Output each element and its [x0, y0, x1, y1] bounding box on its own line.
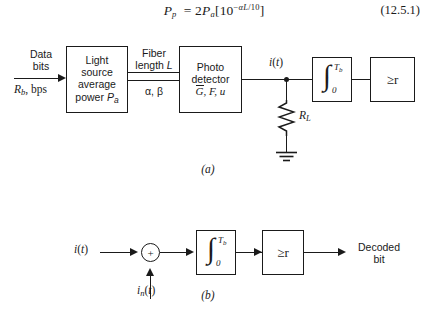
resistor-top-wire — [286, 80, 287, 102]
comparator-block-b: ≥r — [262, 230, 304, 275]
integral-upper-a: Tb — [334, 62, 343, 74]
sum-to-integrator-arrowhead — [186, 248, 194, 256]
source-line2: source — [81, 66, 113, 78]
sum-sign: + — [147, 247, 153, 259]
caption-a: (a) — [178, 163, 238, 175]
current-label-a: i(t) — [269, 56, 283, 68]
input-arrowhead — [58, 74, 66, 82]
output-arrowhead-b — [338, 248, 346, 256]
integrator-to-comparator-wire-a — [352, 79, 370, 80]
summing-junction: + — [141, 243, 160, 262]
input-arrowhead-b — [130, 248, 138, 256]
fiber-label-line2: length L — [135, 59, 172, 71]
noise-label: in(t) — [137, 284, 155, 298]
input-wire-b — [100, 252, 132, 253]
integrator-glyph-a: ∫ Tb 0 — [317, 63, 347, 97]
integral-sign-b: ∫ — [207, 234, 215, 263]
integrator-glyph-b: ∫ Tb 0 — [201, 236, 231, 270]
source-line1: Light — [86, 54, 109, 66]
ground-icon — [274, 151, 299, 163]
fiber-line-bottom — [128, 80, 179, 81]
detector-line2: detector — [192, 73, 230, 85]
integrator-block-b: ∫ Tb 0 — [196, 230, 236, 275]
decoded-bit-label: Decoded bit — [348, 241, 410, 266]
fiber-length-label: Fiber length L — [128, 47, 180, 72]
fiber-line-top — [128, 72, 179, 73]
integrator-block-a: ∫ Tb 0 — [312, 57, 352, 102]
detector-output-wire — [242, 79, 312, 80]
load-resistor-label: RL — [299, 109, 311, 123]
fiber-label-line1: Fiber — [142, 47, 166, 59]
equation-row: Pp = 2Pa[10−αL/10] (12.5.1) — [0, 2, 428, 24]
decoded-bit-line2: bit — [373, 253, 384, 265]
data-bits-line2: bits — [33, 60, 49, 72]
integral-lower-b: 0 — [216, 258, 221, 269]
integrator-to-comparator-arrowhead — [254, 248, 262, 256]
data-bits-label: Data bits — [14, 48, 68, 73]
figure-page: Pp = 2Pa[10−αL/10] (12.5.1) Data bits Rb… — [0, 0, 428, 310]
caption-b: (b) — [178, 289, 238, 301]
equation-expression: Pp = 2Pa[10−αL/10] — [0, 2, 428, 19]
light-source-block: Light source average power Pa — [66, 46, 128, 113]
integral-lower-a: 0 — [332, 85, 337, 96]
source-line4: power Pa — [75, 91, 118, 103]
comparator-block-a: ≥r — [370, 57, 415, 102]
bit-rate-label: Rb, bps — [14, 83, 47, 97]
comparator-label-a: ≥r — [387, 72, 398, 87]
equation-number: (12.5.1) — [380, 3, 420, 18]
comparator-label-b: ≥r — [277, 245, 288, 260]
data-bits-line1: Data — [30, 48, 52, 60]
source-line3: average — [78, 78, 116, 90]
integral-upper-b: Tb — [218, 235, 227, 247]
detector-params: G, F, u — [196, 85, 226, 97]
decoded-bit-line1: Decoded — [358, 241, 400, 253]
input-wire — [14, 78, 60, 79]
fiber-params-label: α, β — [128, 85, 180, 97]
detector-line1: Photo — [197, 61, 224, 73]
photo-detector-block: Photo detector G, F, u — [179, 46, 242, 113]
integral-sign-a: ∫ — [323, 61, 331, 90]
current-label-b: i(t) — [74, 243, 88, 255]
load-resistor-symbol — [277, 100, 296, 136]
noise-arrowhead — [146, 268, 154, 276]
